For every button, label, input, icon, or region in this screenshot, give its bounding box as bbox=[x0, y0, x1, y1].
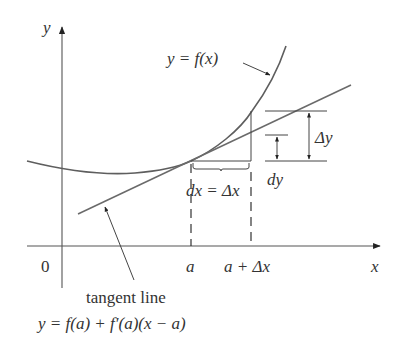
tangent-line-label: tangent line bbox=[86, 288, 166, 307]
tangent-label-pointer bbox=[105, 207, 134, 280]
tick-label-a: a bbox=[186, 257, 195, 276]
x-axis-label: x bbox=[370, 257, 379, 276]
y-axis-label: y bbox=[41, 18, 51, 37]
origin-label: 0 bbox=[41, 257, 50, 276]
dy-label: dy bbox=[267, 170, 284, 189]
diagram-canvas: y x 0 y = f(x) a a + Δx dx = Δx Δy dy ta… bbox=[0, 0, 400, 342]
curve-label-pointer bbox=[243, 63, 270, 75]
tangent-equation: y = f(a) + f′(a)(x − a) bbox=[36, 314, 186, 333]
tick-label-a-plus-dx: a + Δx bbox=[224, 257, 270, 276]
delta-y-label: Δy bbox=[314, 128, 333, 147]
dx-label: dx = Δx bbox=[186, 181, 240, 200]
dx-brace bbox=[193, 163, 249, 171]
curve-label: y = f(x) bbox=[165, 49, 218, 68]
